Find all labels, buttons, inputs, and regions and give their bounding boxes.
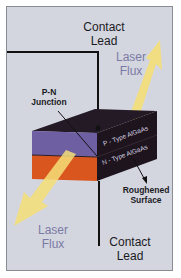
laser-flux-bottom-label: Laser Flux xyxy=(30,224,76,252)
contact-lead-bottom-label: Contact Lead xyxy=(102,236,158,264)
laser-flux-top-label: Laser Flux xyxy=(108,51,154,79)
pn-junction-label: P-N Junction xyxy=(26,88,72,108)
contact-lead-top-label: Contact Lead xyxy=(76,21,132,49)
diagram-frame: P - Type AlGaAs N - Type AlGaAs Contact … xyxy=(0,0,181,278)
roughened-surface-label: Roughened Surface xyxy=(118,186,174,206)
